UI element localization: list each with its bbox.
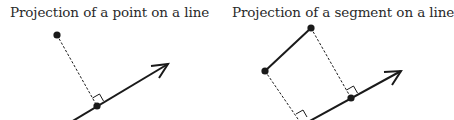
perpendicular-dashed-line	[57, 35, 97, 106]
projection-line	[66, 64, 168, 120]
segment-end-a-dot	[261, 67, 268, 74]
projection-dot	[93, 102, 100, 109]
segment	[265, 28, 311, 71]
point-dot	[53, 31, 60, 38]
segment-end-b-dot	[307, 24, 314, 31]
right-angle-marker	[347, 86, 358, 93]
panel-point-projection	[53, 31, 168, 120]
projection-b-dot	[347, 94, 354, 101]
perpendicular-dashed-line	[311, 28, 351, 98]
perpendicular-dashed-line	[265, 71, 300, 120]
panel-segment-projection	[261, 24, 401, 120]
right-angle-marker	[296, 110, 307, 117]
